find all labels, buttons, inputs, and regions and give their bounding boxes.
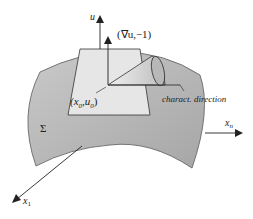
gradient-label: (∇u,−1) (117, 28, 152, 41)
gradient-arrow-icon (104, 36, 112, 44)
u-axis-label: u (90, 11, 95, 22)
u-axis-arrow-icon (96, 15, 104, 23)
xn-axis-label: xn (224, 117, 233, 130)
x1-axis-label: x1 (22, 195, 31, 208)
characteristic-diagram: u (∇u,−1) (x0,u0) charact. direction Σ x… (0, 0, 253, 219)
sigma-label: Σ (40, 122, 46, 134)
characteristic-direction-label: charact. direction (162, 94, 227, 104)
x1-axis-arrow-icon (12, 194, 21, 203)
xn-axis-arrow-icon (235, 129, 243, 137)
